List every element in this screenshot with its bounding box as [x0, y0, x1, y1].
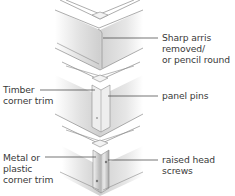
panel-timber-trim	[55, 62, 143, 137]
label-arris: Sharp arris removed/ or pencil round	[162, 32, 230, 66]
label-raised-screws: raised head screws	[162, 154, 215, 176]
panel-pin	[96, 117, 98, 119]
raised-head-screw	[105, 161, 107, 163]
raised-head-screw	[96, 180, 98, 182]
label-timber-trim: Timber corner trim	[3, 84, 53, 106]
label-panel-pins: panel pins	[162, 90, 208, 101]
label-metal-trim: Metal or plastic corner trim	[3, 152, 53, 186]
cap-top	[92, 12, 108, 19]
cap-top	[92, 75, 108, 82]
panel-arris	[55, 0, 143, 70]
